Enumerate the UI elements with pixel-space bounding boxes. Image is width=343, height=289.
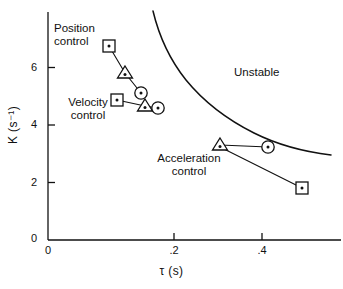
marker-circle-dot [135, 87, 147, 99]
x-axis-title: τ (s) [0, 264, 343, 278]
acceleration-control-label: Acceleration control [143, 152, 235, 178]
velocity-control-label-line1: Velocity [52, 96, 124, 109]
x-tick-label-0: 0 [40, 244, 56, 256]
x-tick-label-02: .2 [166, 244, 182, 256]
velocity-control-label-line2: control [52, 109, 124, 122]
velocity-control-label: Velocity control [52, 96, 124, 122]
position-control-label: Position control [54, 22, 95, 48]
y-axis-title: K (s⁻¹) [6, 90, 20, 160]
acceleration-control-label-line1: Acceleration [143, 152, 235, 165]
y-tick-label-6: 6 [26, 61, 42, 73]
y-tick-label-2: 2 [26, 176, 42, 188]
acceleration-control-line [220, 145, 268, 147]
y-tick-label-0: 0 [26, 232, 42, 244]
x-axis-ticks [174, 233, 262, 240]
chart-container: 6 4 2 0 0 .2 .4 τ (s) K (s⁻¹) Position c… [0, 0, 343, 289]
marker-square-dot [296, 182, 308, 194]
unstable-region-label: Unstable [234, 66, 279, 79]
marker-circle-dot [152, 102, 164, 114]
marker-circle-dot [262, 141, 274, 153]
x-tick-label-04: .4 [254, 244, 270, 256]
y-axis-ticks [48, 68, 55, 183]
position-control-label-line2: control [54, 35, 95, 48]
position-control-label-line1: Position [54, 22, 95, 35]
marker-triangle-dot [118, 66, 133, 78]
acceleration-control-label-line2: control [143, 165, 235, 178]
series-position-control [103, 40, 147, 99]
marker-square-dot [103, 40, 115, 52]
y-tick-label-4: 4 [26, 118, 42, 130]
stability-boundary-curve [153, 11, 331, 155]
marker-triangle-dot [213, 138, 228, 150]
